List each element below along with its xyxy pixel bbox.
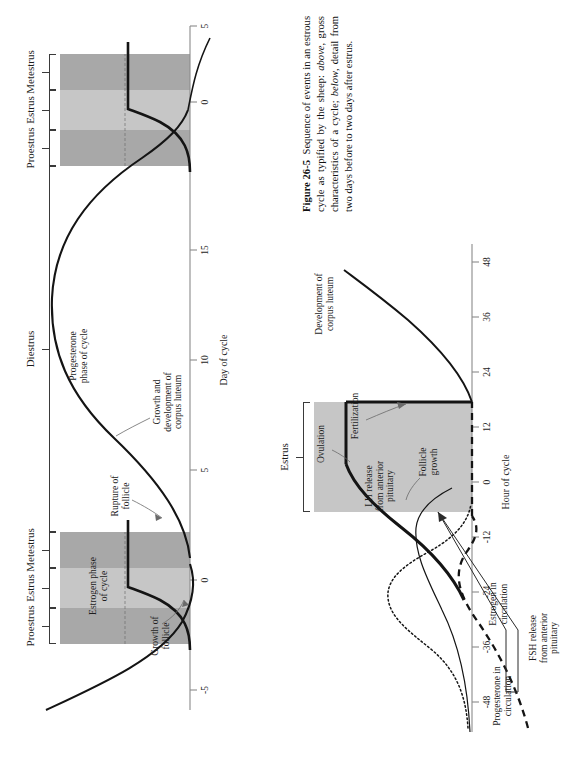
annotation-follicle-growth: Follicle growth: [418, 447, 439, 476]
upper-tick-label-4: 15: [200, 245, 210, 255]
bracket-label-proestrus-1: Proestrus: [24, 606, 36, 647]
figure-26-5: Proestrus Estrus Metestrus: [0, 0, 572, 768]
bracket-metestrus-1: [42, 532, 56, 568]
rotated-figure-stage: Proestrus Estrus Metestrus: [0, 0, 572, 768]
lower-tick-label-7: 36: [482, 312, 492, 322]
lower-tick-label-6: 24: [482, 367, 492, 377]
bracket-estrus-2: [42, 90, 56, 130]
bracket-label-estrus-2: Estrus: [24, 96, 36, 124]
annotation-estrogen-phase: Estrogen phase of cycle: [88, 557, 109, 615]
annotation-growth-of-follicle: Growth of follicle: [150, 616, 171, 655]
lower-chart-panel: Estrus LH release from anterior pituitar…: [292, 230, 554, 750]
lower-x-ticks: [472, 262, 479, 702]
annotation-rupture-of-follicle: Rupture of follicle: [110, 476, 131, 517]
bracket-estrus-lower: [296, 402, 310, 512]
annotation-lh-release: LH release from anterior pituitary: [364, 461, 396, 511]
upper-tick-label-0: -5: [200, 686, 210, 694]
annotation-fertilization: Fertilization: [350, 393, 361, 439]
bracket-estrus-1: [42, 568, 56, 608]
curve-estrogen-circulation: [388, 504, 471, 728]
bracket-label-diestrus: Diestrus: [24, 331, 36, 368]
upper-tick-label-5: 0: [200, 100, 210, 105]
bracket-label-estrus-lower: Estrus: [278, 443, 290, 471]
annotation-development-cl: Development of corpus luteum: [314, 273, 335, 334]
caption-emph-below: below: [329, 71, 340, 96]
annotation-progesterone-circulation: Progesterone in circulation: [492, 666, 513, 725]
bracket-label-proestrus-2: Proestrus: [24, 128, 36, 169]
lower-tick-label-0: -48: [482, 696, 492, 709]
bracket-label-metestrus-1: Metestrus: [24, 528, 36, 571]
bracket-diestrus: [42, 166, 56, 532]
upper-tick-label-1: 0: [200, 578, 210, 583]
upper-axis-title: Day of cycle: [218, 334, 229, 385]
annotation-progesterone-phase: Progesterone phase of cycle: [68, 329, 89, 383]
annotation-ovulation: Ovulation: [316, 425, 327, 463]
leader-follicle-growth: [406, 478, 420, 500]
annotation-fsh-release: FSH release from anterior pituitary: [528, 613, 560, 663]
lower-axis-title: Hour of cycle: [500, 455, 511, 510]
figure-caption: Figure 26-5 Sequence of events in an est…: [300, 16, 356, 212]
figure-number: Figure 26-5: [301, 160, 312, 212]
bracket-proestrus-1: [42, 608, 56, 644]
figure-page: Proestrus Estrus Metestrus: [0, 0, 572, 768]
lower-tick-label-8: 48: [482, 257, 492, 267]
lower-tick-label-3: -12: [482, 531, 492, 544]
bracket-label-metestrus-2: Metestrus: [24, 50, 36, 93]
upper-tick-label-6: 5: [200, 24, 210, 29]
lower-tick-label-1: -36: [482, 641, 492, 654]
lower-tick-label-2: -24: [482, 586, 492, 599]
bracket-proestrus-2: [42, 130, 56, 166]
upper-chart-panel: Proestrus Estrus Metestrus: [10, 18, 278, 750]
leader-growth-follicle-arrow: [182, 600, 189, 607]
bracket-metestrus-2: [42, 54, 56, 90]
leader-growth-cl: [116, 418, 150, 436]
caption-emph-above: above: [315, 45, 326, 70]
upper-tick-label-2: 5: [200, 468, 210, 473]
upper-tick-label-3: 10: [200, 355, 210, 365]
leader-rupture: [132, 500, 162, 518]
lower-tick-label-5: 12: [482, 422, 492, 432]
bracket-label-estrus-1: Estrus: [24, 574, 36, 602]
curve-development-corpus-luteum: [344, 270, 472, 402]
annotation-growth-development-cl: Growth and development of corpus luteum: [152, 372, 184, 431]
lower-tick-label-4: 0: [482, 480, 492, 485]
curve-estrogen-spike-2: [128, 42, 190, 172]
